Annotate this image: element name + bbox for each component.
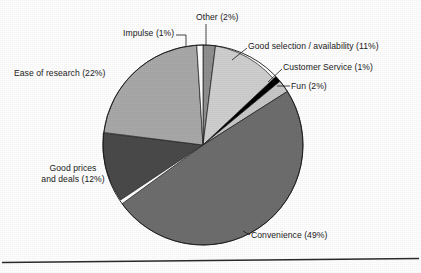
leader-line-impulse <box>176 35 186 46</box>
pie-slice-ease-of-research[interactable] <box>104 45 203 145</box>
label-convenience: Convenience (49%) <box>251 230 327 241</box>
label-ease-of-research: Ease of research (22%) <box>14 68 105 79</box>
label-impulse: Impulse (1%) <box>123 28 174 39</box>
label-good-selection: Good selection / availability (11%) <box>248 41 379 52</box>
label-good-prices-line1: Good prices <box>50 163 97 173</box>
chart-figure: Impulse (1%) Other (2%) Good selection /… <box>0 0 421 273</box>
label-other: Other (2%) <box>196 12 239 23</box>
bottom-rule <box>2 259 419 263</box>
label-fun: Fun (2%) <box>291 81 327 92</box>
label-good-prices: Good prices and deals (12%) <box>30 163 116 184</box>
label-customer-service: Customer Service (1%) <box>283 62 373 73</box>
pie-slices <box>103 45 303 245</box>
label-good-prices-line2: and deals (12%) <box>41 174 104 184</box>
